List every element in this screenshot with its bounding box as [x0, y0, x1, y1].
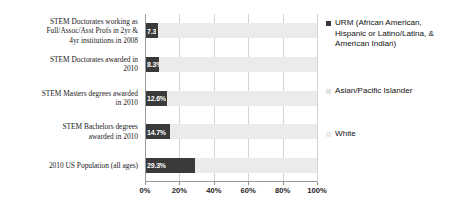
bar-data-label: 12.6% — [147, 95, 166, 102]
y-axis-label: 2010 US Population (all ages) — [0, 161, 138, 170]
bar-row: 12.6% — [145, 91, 317, 106]
plot-area: 7.38.3%12.6%14.7%29.3% — [145, 14, 317, 182]
y-axis-label: STEM Doctorates awarded in 2010 — [0, 55, 138, 74]
bar-stack: 14.7% — [145, 124, 317, 139]
bar-stack: 8.3% — [145, 57, 317, 72]
bar-row: 29.3% — [145, 158, 317, 173]
bar-segment-white — [170, 124, 317, 139]
legend-label: White — [335, 129, 447, 140]
bar-stack: 12.6% — [145, 91, 317, 106]
legend-swatch-icon — [326, 21, 331, 26]
bar-data-label: 7.3 — [147, 27, 156, 34]
y-axis-label: STEM Masters degrees awarded in 2010 — [0, 89, 138, 108]
legend-swatch-icon — [326, 89, 331, 94]
x-axis-ticks: 0%20%40%60%80%100% — [145, 182, 317, 204]
x-axis-tick-label: 80% — [275, 186, 290, 195]
bar-segment-urm: 14.7% — [145, 124, 170, 139]
x-axis-tick-label: 100% — [307, 186, 326, 195]
y-axis-category-labels: STEM Doctorates working as Full/Assoc/As… — [0, 14, 142, 182]
bar-segment-urm: 12.6% — [145, 91, 167, 106]
x-axis-tick-label: 60% — [241, 186, 256, 195]
y-axis-line — [145, 14, 146, 182]
bar-stack: 29.3% — [145, 158, 317, 173]
x-axis-tick-mark — [145, 182, 146, 185]
bar-row: 14.7% — [145, 124, 317, 139]
bar-data-label: 29.3% — [147, 162, 166, 169]
bar-segment-white — [195, 158, 317, 173]
bar-segment-white — [167, 91, 317, 106]
x-axis-tick-label: 40% — [206, 186, 221, 195]
bar-stack: 7.3 — [145, 23, 317, 38]
x-axis-tick-mark — [214, 182, 215, 185]
x-axis-tick-label: 20% — [172, 186, 187, 195]
x-axis-tick-mark — [317, 182, 318, 185]
bar-row: 8.3% — [145, 57, 317, 72]
bar-data-label: 14.7% — [147, 128, 166, 135]
bar-row: 7.3 — [145, 23, 317, 38]
bar-segment-urm: 29.3% — [145, 158, 195, 173]
legend-item[interactable]: URM (African American, Hispanic or Latin… — [326, 18, 447, 50]
legend-item[interactable]: White — [326, 129, 447, 140]
x-axis-tick-label: 0% — [140, 186, 151, 195]
y-axis-label: STEM Doctorates working as Full/Assoc/As… — [0, 17, 138, 45]
legend-label: Asian/Pacific Islander — [335, 86, 447, 97]
legend-label: URM (African American, Hispanic or Latin… — [335, 18, 447, 50]
legend-swatch-icon — [326, 132, 331, 137]
x-axis-tick-mark — [248, 182, 249, 185]
bar-segment-white — [158, 23, 317, 38]
y-axis-label: STEM Bachelors degrees awarded in 2010 — [0, 122, 138, 141]
bar-segment-urm: 7.3 — [145, 23, 158, 38]
x-axis-tick-mark — [283, 182, 284, 185]
gridline — [317, 14, 318, 182]
bar-segment-urm: 8.3% — [145, 57, 159, 72]
bar-segment-white — [159, 57, 317, 72]
legend-item[interactable]: Asian/Pacific Islander — [326, 86, 447, 97]
chart-container: STEM Doctorates working as Full/Assoc/As… — [0, 0, 449, 212]
x-axis-tick-mark — [179, 182, 180, 185]
